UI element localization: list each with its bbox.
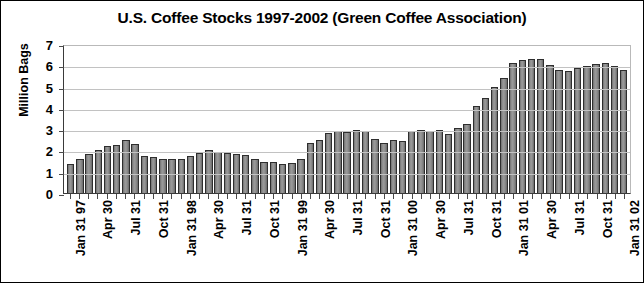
x-tick-mark xyxy=(162,194,163,199)
x-tick-mark xyxy=(504,194,505,199)
x-tick-mark xyxy=(292,194,293,199)
bar xyxy=(353,130,360,193)
x-tick-mark xyxy=(79,194,80,199)
bar xyxy=(307,143,314,193)
x-tick-mark xyxy=(199,194,200,199)
x-tick-mark xyxy=(365,194,366,199)
y-tick-label: 0 xyxy=(35,188,53,201)
y-tick-mark xyxy=(59,67,64,68)
bar xyxy=(316,140,323,193)
y-tick-mark xyxy=(59,89,64,90)
bar xyxy=(224,153,231,193)
bar xyxy=(463,124,470,193)
bar xyxy=(399,141,406,193)
x-tick-label: Apr 30 xyxy=(213,200,226,239)
bar xyxy=(343,132,350,193)
x-tick-label: Jan 31 00 xyxy=(407,200,420,256)
bar xyxy=(537,59,544,193)
x-tick-mark xyxy=(587,194,588,199)
x-tick-mark xyxy=(218,194,219,199)
x-tick-mark xyxy=(513,194,514,199)
gridline xyxy=(64,174,630,175)
x-tick-mark xyxy=(532,194,533,199)
bar xyxy=(473,106,480,193)
bar xyxy=(500,78,507,193)
x-tick-mark xyxy=(273,194,274,199)
x-tick-mark xyxy=(597,194,598,199)
x-tick-mark xyxy=(569,194,570,199)
bar xyxy=(279,164,286,193)
x-tick-mark xyxy=(624,194,625,199)
x-tick-mark xyxy=(282,194,283,199)
x-tick-mark xyxy=(375,194,376,199)
x-tick-mark xyxy=(171,194,172,199)
x-tick-mark xyxy=(208,194,209,199)
bar xyxy=(380,143,387,193)
chart-title: U.S. Coffee Stocks 1997-2002 (Green Coff… xyxy=(1,9,643,27)
x-tick-mark xyxy=(125,194,126,199)
x-tick-mark xyxy=(236,194,237,199)
x-tick-label: Apr 30 xyxy=(102,200,115,239)
x-tick-mark xyxy=(541,194,542,199)
bar xyxy=(297,159,304,193)
x-tick-mark xyxy=(88,194,89,199)
x-tick-mark xyxy=(476,194,477,199)
chart-figure: U.S. Coffee Stocks 1997-2002 (Green Coff… xyxy=(0,0,644,283)
x-tick-mark xyxy=(264,194,265,199)
x-tick-mark xyxy=(144,194,145,199)
x-tick-mark xyxy=(486,194,487,199)
bar xyxy=(426,131,433,193)
bar xyxy=(196,153,203,193)
x-tick-label: Jan 31 01 xyxy=(518,200,531,256)
x-tick-label: Jan 31 97 xyxy=(75,200,88,256)
x-tick-label: Jan 31 98 xyxy=(186,200,199,256)
x-tick-label: Oct 31 xyxy=(602,200,615,238)
x-tick-label: Jul 31 xyxy=(130,200,143,235)
x-tick-mark xyxy=(467,194,468,199)
bar xyxy=(168,159,175,193)
y-tick-mark xyxy=(59,174,64,175)
x-tick-mark xyxy=(439,194,440,199)
bar xyxy=(288,163,295,193)
bar xyxy=(390,140,397,193)
x-tick-mark xyxy=(393,194,394,199)
bar xyxy=(214,152,221,194)
x-tick-mark xyxy=(495,194,496,199)
y-tick-label: 3 xyxy=(35,124,53,137)
x-tick-label: Apr 30 xyxy=(546,200,559,239)
x-tick-label: Jul 31 xyxy=(574,200,587,235)
x-tick-mark xyxy=(319,194,320,199)
bar xyxy=(482,98,489,193)
bar xyxy=(417,130,424,193)
y-tick-mark xyxy=(59,131,64,132)
x-tick-mark xyxy=(245,194,246,199)
x-tick-mark xyxy=(578,194,579,199)
y-tick-label: 1 xyxy=(35,166,53,179)
y-tick-label: 7 xyxy=(35,39,53,52)
x-tick-mark xyxy=(153,194,154,199)
y-axis-tick-labels: 01234567 xyxy=(35,45,53,194)
y-tick-label: 4 xyxy=(35,102,53,115)
bar xyxy=(445,134,452,193)
y-tick-label: 6 xyxy=(35,60,53,73)
x-tick-mark xyxy=(181,194,182,199)
x-tick-mark xyxy=(615,194,616,199)
x-tick-mark xyxy=(134,194,135,199)
x-tick-mark xyxy=(412,194,413,199)
bar xyxy=(491,87,498,193)
bar xyxy=(371,139,378,193)
x-tick-mark xyxy=(606,194,607,199)
x-tick-mark xyxy=(70,194,71,199)
x-tick-mark xyxy=(310,194,311,199)
x-tick-label: Jan 31 02 xyxy=(629,200,642,256)
bar xyxy=(178,159,185,193)
y-axis-label: Million Bags xyxy=(17,10,31,150)
y-tick-mark xyxy=(59,152,64,153)
plot-area xyxy=(63,45,631,194)
gridline xyxy=(64,110,630,111)
x-tick-mark xyxy=(560,194,561,199)
x-tick-mark xyxy=(384,194,385,199)
x-tick-mark xyxy=(338,194,339,199)
x-tick-label: Jan 31 99 xyxy=(297,200,310,256)
x-tick-mark xyxy=(402,194,403,199)
